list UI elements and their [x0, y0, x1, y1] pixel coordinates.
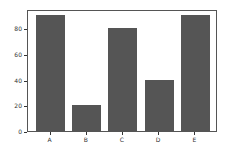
bar-E: [181, 15, 210, 131]
x-tick-mark: [86, 132, 87, 135]
x-tick-mark: [122, 132, 123, 135]
y-tick-mark: [24, 55, 27, 56]
x-tick-label: E: [187, 136, 201, 143]
bar-A: [36, 15, 65, 131]
x-tick-label: C: [115, 136, 129, 143]
y-tick-mark: [24, 106, 27, 107]
y-tick-mark: [24, 132, 27, 133]
x-tick-label: B: [79, 136, 93, 143]
bar-D: [145, 80, 174, 132]
y-tick-label: 60: [6, 51, 22, 58]
x-tick-mark: [50, 132, 51, 135]
bar-B: [72, 105, 101, 131]
x-tick-label: D: [151, 136, 165, 143]
x-tick-label: A: [43, 136, 57, 143]
plot-area: [27, 10, 217, 132]
y-tick-mark: [24, 29, 27, 30]
y-tick-label: 80: [6, 25, 22, 32]
x-tick-mark: [194, 132, 195, 135]
y-tick-label: 40: [6, 77, 22, 84]
x-tick-mark: [158, 132, 159, 135]
y-tick-label: 0: [6, 128, 22, 135]
y-tick-mark: [24, 81, 27, 82]
y-tick-label: 20: [6, 102, 22, 109]
bar-C: [108, 28, 137, 131]
